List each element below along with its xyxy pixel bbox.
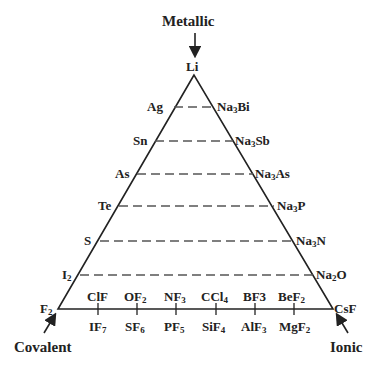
row-left-as: As	[115, 167, 129, 180]
base-above-ccl4: CCl4	[201, 290, 228, 305]
base-below-mgf2: MgF2	[279, 320, 310, 335]
ionic-arrow-icon	[339, 318, 348, 333]
covalent-arrow-icon	[44, 318, 53, 333]
base-below-pf5: PF5	[164, 320, 184, 335]
row-right-na3sb: Na3Sb	[235, 134, 270, 149]
row-left-ag: Ag	[147, 100, 163, 113]
base-above-bf3: BF3	[243, 290, 266, 303]
covalent-label: Covalent	[14, 340, 72, 355]
row-left-te: Te	[98, 199, 111, 212]
base-above-bef2: BeF2	[278, 290, 305, 305]
row-right-na3n: Na3N	[296, 234, 326, 249]
row-left-i2: I2	[62, 268, 72, 283]
triangle-diagram	[0, 0, 384, 373]
f2-label: F2	[40, 302, 52, 317]
base-above-nf3: NF3	[164, 290, 186, 305]
base-above-of2: OF2	[124, 290, 147, 305]
base-below-sf6: SF6	[125, 320, 145, 335]
ionic-label: Ionic	[330, 340, 363, 355]
row-right-na3bi: Na3Bi	[217, 100, 250, 115]
base-below-sif4: SiF4	[202, 320, 225, 335]
row-right-na3p: Na3P	[277, 199, 305, 214]
row-right-na3as: Na3As	[255, 167, 290, 182]
row-right-na2o: Na2O	[316, 268, 347, 283]
base-below-alf3: AlF3	[241, 320, 266, 335]
base-below-if7: IF7	[89, 320, 107, 335]
triangle-outline	[58, 75, 333, 309]
metallic-label: Metallic	[162, 14, 214, 29]
row-left-sn: Sn	[133, 134, 147, 147]
row-left-s: S	[84, 234, 91, 247]
csf-label: CsF	[334, 302, 356, 315]
base-above-clf: ClF	[87, 290, 108, 303]
dashed-lines	[80, 107, 314, 275]
li-label: Li	[186, 60, 198, 73]
